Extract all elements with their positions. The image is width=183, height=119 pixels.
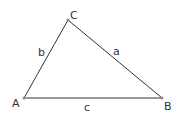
vertex-c-label: C bbox=[70, 9, 78, 22]
side-c-label: c bbox=[84, 101, 90, 114]
vertex-b-label: B bbox=[164, 100, 172, 113]
triangle-shape bbox=[24, 20, 162, 98]
side-b-label: b bbox=[38, 46, 45, 59]
vertex-a-point bbox=[23, 97, 26, 100]
triangle-diagram: C A B b a c bbox=[0, 0, 183, 119]
side-a-label: a bbox=[113, 45, 120, 58]
vertex-a-label: A bbox=[12, 97, 20, 110]
